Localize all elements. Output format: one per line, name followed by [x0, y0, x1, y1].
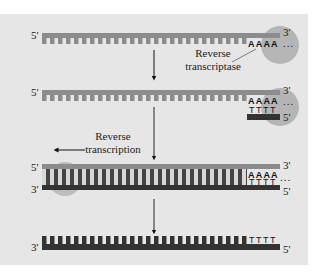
three-prime-label: 3': [283, 160, 290, 171]
oligo-t-primer: TTTT: [249, 236, 277, 245]
five-prime-label: 5': [31, 162, 38, 173]
oligo-t-primer: TTTT: [249, 178, 277, 187]
three-prime-label: 3': [31, 184, 38, 195]
step3-hybrid: [42, 162, 280, 196]
rna-backbone: [42, 90, 280, 95]
poly-a-tail: AAAA: [248, 40, 279, 49]
rna-backbone: [42, 164, 280, 169]
cdna-bases: [42, 236, 247, 244]
five-prime-label: 5': [283, 112, 290, 123]
rna-bases: [42, 38, 247, 44]
base-pairs: [42, 169, 247, 185]
dna-backbone: [42, 185, 280, 190]
continuation-dots: ...: [280, 172, 291, 183]
continuation-dots: ...: [283, 96, 294, 107]
cdna-backbone: [42, 244, 280, 250]
five-prime-label: 5': [283, 244, 290, 255]
oligo-t-primer: TTTT: [249, 106, 277, 115]
continuation-dots: ...: [283, 38, 294, 49]
rna-backbone: [42, 33, 280, 38]
step4-cdna: [42, 236, 280, 250]
reverse-transcription-label: Reverse transcription: [84, 130, 142, 155]
three-prime-label: 3': [31, 242, 38, 253]
rna-bases: [42, 95, 247, 101]
five-prime-label: 5': [31, 30, 38, 41]
five-prime-label: 5': [31, 87, 38, 98]
five-prime-label: 5': [283, 186, 290, 197]
reverse-transcriptase-label: Reverse transcriptase: [178, 47, 248, 72]
